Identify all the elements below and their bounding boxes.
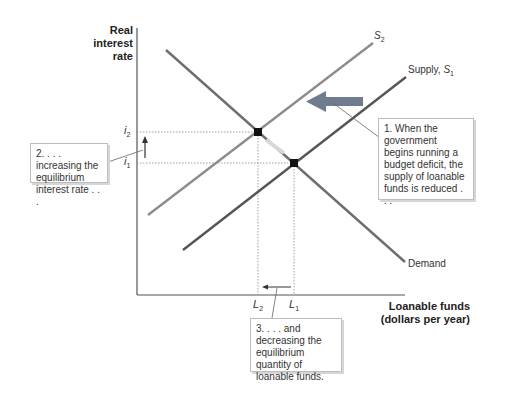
x-axis-label: Loanable funds (dollars per year) — [370, 300, 470, 326]
tick-sub: 1 — [126, 162, 130, 169]
callout-supply-reduced: 1. When the government begins running a … — [378, 118, 474, 200]
equilibrium-point-e1 — [290, 159, 298, 167]
callout-1-leader — [333, 103, 380, 138]
callout-interest-rises: 2. . . . increasing the equilibrium inte… — [30, 143, 108, 183]
s1-sub: 1 — [450, 70, 454, 77]
x-axis-label-line: (dollars per year) — [370, 313, 470, 326]
x-axis-label-line: Loanable funds — [370, 300, 470, 313]
s2-sub: 2 — [381, 36, 385, 43]
y-axis-label-line: rate — [93, 50, 133, 63]
movement-arrow — [266, 140, 284, 153]
demand-curve — [166, 50, 405, 262]
callout-quantity-falls: 3. . . . and decreasing the equilibrium … — [250, 318, 342, 372]
s1-label: Supply, S1 — [408, 64, 454, 77]
equilibrium-point-e2 — [254, 128, 262, 136]
callout-3-leader — [272, 288, 277, 318]
y-axis-label-line: interest — [93, 37, 133, 50]
s1-prefix: Supply, — [408, 64, 443, 75]
rate-up-arrow-icon — [142, 136, 148, 158]
tick-l2: L2 — [253, 298, 263, 312]
tick-sub: 2 — [126, 131, 130, 138]
demand-label: Demand — [408, 258, 446, 269]
tick-sub: 1 — [295, 305, 299, 312]
tick-sub: 2 — [259, 305, 263, 312]
supply-shift-arrow-icon — [306, 91, 363, 112]
tick-i1: i1 — [124, 155, 130, 169]
y-axis-label-line: Real — [93, 24, 133, 37]
s2-letter: S — [374, 30, 381, 41]
tick-i2: i2 — [124, 124, 130, 138]
y-axis-label: Real interest rate — [93, 24, 133, 63]
tick-l1: L1 — [289, 298, 299, 312]
s2-label: S2 — [374, 30, 385, 43]
